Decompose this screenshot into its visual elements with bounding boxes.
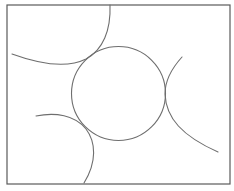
rectangle-frame <box>7 5 230 184</box>
right-arc <box>165 57 218 152</box>
bottom-left-arc <box>36 114 94 183</box>
diagram-canvas <box>0 0 234 191</box>
tangent-circles-diagram <box>0 0 234 191</box>
central-circle <box>72 47 166 141</box>
top-left-arc <box>12 5 110 64</box>
